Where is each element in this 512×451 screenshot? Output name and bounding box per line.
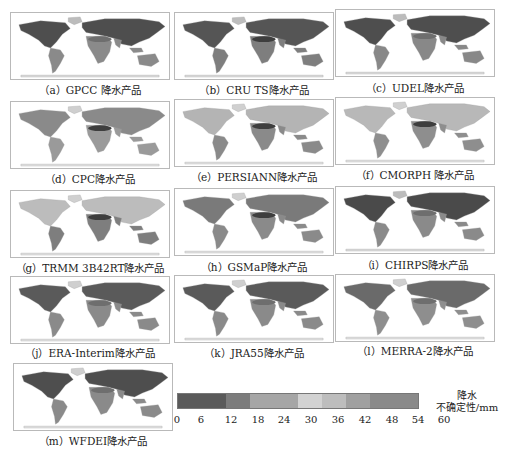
world-map — [175, 100, 333, 166]
colorbar-tick: 42 — [353, 414, 377, 425]
colorbar-title: 降水 不确定性/mm — [422, 390, 512, 414]
colorbar-tick: 54 — [406, 414, 430, 425]
map-panel-f — [335, 97, 495, 165]
caption-j: （j）ERA-Interim降水产品 — [5, 347, 175, 359]
caption-k: （k）JRA55降水产品 — [169, 347, 339, 359]
world-map — [11, 102, 169, 168]
map-panel-e — [174, 99, 334, 167]
colorbar-seg-6 — [370, 394, 418, 408]
world-map — [14, 364, 172, 430]
colorbar-tick: 18 — [246, 414, 270, 425]
colorbar-tick: 12 — [219, 414, 243, 425]
colorbar — [177, 393, 419, 409]
colorbar-tick: 60 — [432, 414, 456, 425]
world-map — [11, 191, 169, 257]
colorbar-seg-1 — [226, 394, 250, 408]
world-map — [175, 189, 333, 255]
world-map — [175, 276, 333, 342]
colorbar-tick: 48 — [380, 414, 404, 425]
caption-l: （l）MERRA-2降水产品 — [330, 345, 500, 357]
world-map — [336, 275, 494, 341]
caption-f: （f）CMORPH 降水产品 — [330, 169, 500, 181]
colorbar-tick: 6 — [189, 414, 213, 425]
caption-i: （i）CHIRPS降水产品 — [330, 259, 500, 271]
colorbar-tick: 36 — [326, 414, 350, 425]
world-map — [11, 277, 169, 343]
caption-g: （g）TRMM 3B42RT降水产品 — [5, 262, 175, 274]
map-panel-j — [10, 276, 170, 344]
world-map — [175, 13, 333, 79]
caption-d: （d）CPC降水产品 — [5, 173, 175, 185]
colorbar-seg-3 — [298, 394, 322, 408]
colorbar-tick: 30 — [299, 414, 323, 425]
colorbar-seg-4 — [322, 394, 346, 408]
colorbar-seg-2 — [250, 394, 298, 408]
caption-e: （e）PERSIANN降水产品 — [169, 171, 339, 183]
world-map — [11, 13, 169, 79]
map-panel-g — [10, 190, 170, 258]
map-panel-c — [335, 9, 495, 77]
world-map — [336, 98, 494, 164]
map-panel-l — [335, 274, 495, 342]
colorbar-title-line2: 不确定性/mm — [422, 402, 512, 414]
map-panel-d — [10, 101, 170, 169]
map-panel-m — [13, 363, 173, 431]
map-panel-h — [174, 188, 334, 256]
map-panel-k — [174, 275, 334, 343]
caption-b: （b）CRU TS降水产品 — [169, 84, 339, 96]
colorbar-seg-5 — [346, 394, 370, 408]
map-panel-a — [10, 12, 170, 80]
caption-m: （m）WFDEI降水产品 — [8, 435, 178, 447]
map-panel-i — [335, 186, 495, 254]
world-map — [336, 10, 494, 76]
colorbar-seg-0 — [178, 394, 226, 408]
world-map — [336, 187, 494, 253]
colorbar-title-line1: 降水 — [422, 390, 512, 402]
caption-h: （h）GSMaP降水产品 — [169, 261, 339, 273]
colorbar-tick: 0 — [165, 414, 189, 425]
colorbar-tick: 24 — [272, 414, 296, 425]
map-panel-b — [174, 12, 334, 80]
caption-c: （c）UDEL降水产品 — [330, 82, 500, 94]
caption-a: （a）GPCC 降水产品 — [5, 84, 175, 96]
